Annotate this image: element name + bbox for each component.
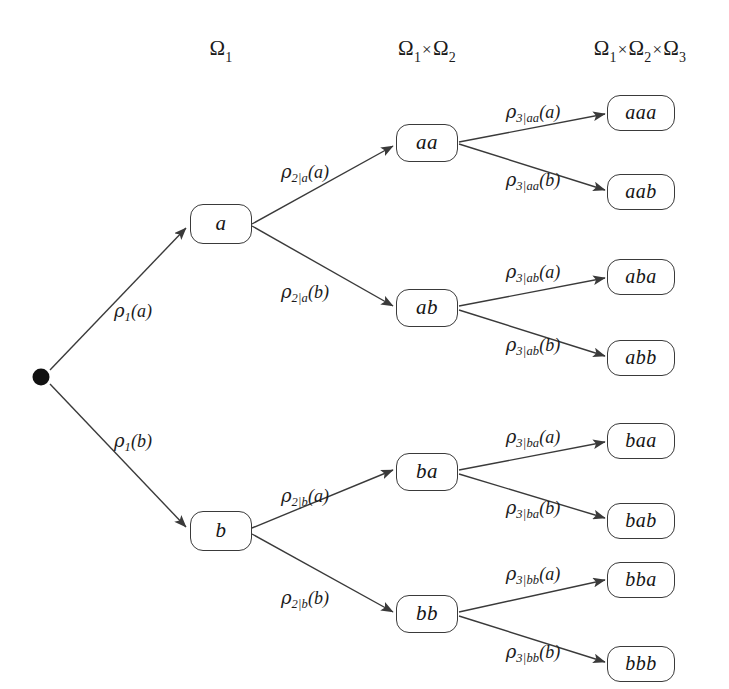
edge-label-rho3-given-bb-of-b: ρ3|bb(b) <box>506 641 561 663</box>
rho-symbol: ρ <box>506 426 517 447</box>
column-header-omega1-x-omega2-x-omega3: Ω1×Ω2×Ω3 <box>594 36 687 64</box>
rho-symbol: ρ <box>506 101 517 122</box>
edge-label-rho1-a: ρ1(a) <box>114 300 152 322</box>
edge-root-to-a <box>50 228 186 370</box>
rho-argument: (b) <box>539 498 560 518</box>
edge-a-to-aa <box>252 146 393 224</box>
node-abb[interactable]: abb <box>607 340 675 376</box>
rho-subscript: 3|bb <box>516 651 539 665</box>
rho-symbol: ρ <box>281 281 292 302</box>
node-bba[interactable]: bba <box>607 562 675 598</box>
node-bab[interactable]: bab <box>607 503 675 539</box>
omega1-subscript: 1 <box>414 50 421 65</box>
node-ba[interactable]: ba <box>396 453 458 491</box>
rho-argument: (b) <box>131 431 152 451</box>
rho-symbol: ρ <box>281 161 292 182</box>
rho-argument: (b) <box>539 335 560 355</box>
rho-subscript: 2|a <box>292 171 309 185</box>
rho-subscript: 3|ab <box>516 344 539 358</box>
omega1-subscript: 1 <box>225 50 232 65</box>
edge-label-rho3-given-ab-of-b: ρ3|ab(b) <box>506 334 561 356</box>
edge-label-rho2-given-b-of-b: ρ2|b(b) <box>281 587 329 609</box>
edge-label-rho3-given-ba-of-b: ρ3|ba(b) <box>506 497 561 519</box>
rho-symbol: ρ <box>506 334 517 355</box>
rho-subscript: 3|bb <box>516 573 539 587</box>
rho-subscript: 3|ba <box>516 507 539 521</box>
rho-argument: (b) <box>539 642 560 662</box>
rho-symbol: ρ <box>506 497 517 518</box>
node-aab[interactable]: aab <box>607 174 675 210</box>
rho-symbol: ρ <box>506 169 517 190</box>
rho-subscript: 3|aa <box>516 179 539 193</box>
node-b[interactable]: b <box>190 511 252 551</box>
rho-symbol: ρ <box>114 300 125 321</box>
rho-argument: (a) <box>539 564 560 584</box>
omega1-subscript: 1 <box>609 50 616 65</box>
node-bbb[interactable]: bbb <box>607 646 675 682</box>
omega3-subscript: 3 <box>679 50 686 65</box>
rho-subscript: 2|b <box>292 597 309 611</box>
node-a[interactable]: a <box>190 204 252 244</box>
rho-subscript: 1 <box>125 310 131 324</box>
rho-argument: (b) <box>308 282 329 302</box>
column-header-omega1-x-omega2: Ω1×Ω2 <box>398 36 456 64</box>
node-aaa[interactable]: aaa <box>607 95 675 131</box>
rho-argument: (a) <box>308 162 329 182</box>
rho-argument: (a) <box>539 102 560 122</box>
omega2-subscript: 2 <box>644 50 651 65</box>
edge-label-rho2-given-a-of-b: ρ2|a(b) <box>281 281 329 303</box>
edge-root-to-b <box>50 384 186 527</box>
rho-argument: (a) <box>539 427 560 447</box>
probability-tree-diagram: Ω1 Ω1×Ω2 Ω1×Ω2×Ω3 a b aa ab ba bb aaa aa… <box>0 0 729 689</box>
rho-symbol: ρ <box>506 261 517 282</box>
rho-argument: (a) <box>308 486 329 506</box>
times-symbol: × <box>617 40 629 59</box>
rho-subscript: 3|aa <box>516 111 539 125</box>
times-symbol: × <box>421 40 433 59</box>
rho-subscript: 2|a <box>292 291 309 305</box>
omega2-subscript: 2 <box>449 50 456 65</box>
rho-symbol: ρ <box>281 485 292 506</box>
node-bb[interactable]: bb <box>396 595 458 633</box>
rho-subscript: 3|ba <box>516 436 539 450</box>
edge-label-rho3-given-aa-of-b: ρ3|aa(b) <box>506 169 561 191</box>
node-aba[interactable]: aba <box>607 259 675 295</box>
rho-argument: (b) <box>308 588 329 608</box>
rho-symbol: ρ <box>506 641 517 662</box>
node-aa[interactable]: aa <box>396 124 458 162</box>
edge-label-rho1-b: ρ1(b) <box>114 430 152 452</box>
rho-argument: (b) <box>539 170 560 190</box>
rho-symbol: ρ <box>506 563 517 584</box>
column-header-omega1: Ω1 <box>209 36 232 64</box>
rho-subscript: 2|b <box>292 495 309 509</box>
edge-label-rho2-given-a-of-a: ρ2|a(a) <box>281 161 329 183</box>
rho-argument: (a) <box>539 262 560 282</box>
rho-argument: (a) <box>131 301 152 321</box>
times-symbol: × <box>652 40 664 59</box>
rho-symbol: ρ <box>114 430 125 451</box>
edge-label-rho3-given-ba-of-a: ρ3|ba(a) <box>506 426 561 448</box>
root-node[interactable] <box>33 369 50 386</box>
rho-subscript: 1 <box>125 440 131 454</box>
node-ab[interactable]: ab <box>396 289 458 327</box>
edge-label-rho3-given-aa-of-a: ρ3|aa(a) <box>506 101 561 123</box>
edge-label-rho2-given-b-of-a: ρ2|b(a) <box>281 485 329 507</box>
node-baa[interactable]: baa <box>607 423 675 459</box>
edge-label-rho3-given-ab-of-a: ρ3|ab(a) <box>506 261 561 283</box>
rho-symbol: ρ <box>281 587 292 608</box>
edge-label-rho3-given-bb-of-a: ρ3|bb(a) <box>506 563 561 585</box>
rho-subscript: 3|ab <box>516 271 539 285</box>
